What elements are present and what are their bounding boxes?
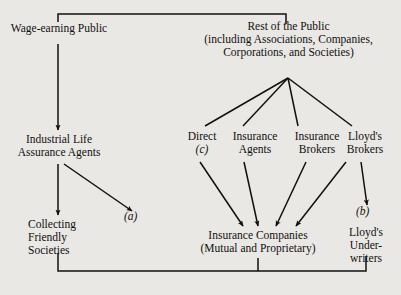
- node-wage-earning-public: Wage-earning Public: [0, 22, 118, 35]
- arrow-insurance-agents-to-insurance-companies: [244, 162, 258, 226]
- arrow-industrial-agents-to-note-a: [64, 164, 132, 211]
- node-collecting-friendly-societies-line-1: Friendly: [28, 231, 104, 244]
- node-collecting-friendly-societies-line-0: Collecting: [28, 218, 104, 231]
- node-rest-of-the-public: Rest of the Public (including Associatio…: [176, 20, 401, 59]
- node-lloyds-underwriters: Lloyd's Under- writers: [336, 226, 396, 265]
- node-lloyds-underwriters-line-0: Lloyd's: [336, 226, 396, 239]
- node-industrial-life-assurance-agents-line-1: Assurance Agents: [0, 146, 118, 159]
- node-collecting-friendly-societies: Collecting Friendly Societies: [28, 218, 104, 257]
- node-wage-earning-public-line-0: Wage-earning Public: [0, 22, 118, 35]
- arrow-lloyds-brokers-to-note-b: [361, 162, 367, 205]
- node-lloyds-brokers-line-0: Lloyd's: [336, 130, 394, 143]
- node-collecting-friendly-societies-line-2: Societies: [28, 244, 104, 257]
- line-rest-public-to-lloyds-brokers: [288, 78, 352, 126]
- node-industrial-life-assurance-agents: Industrial Life Assurance Agents: [0, 133, 118, 159]
- node-lloyds-underwriters-line-1: Under-: [336, 239, 396, 252]
- node-rest-of-the-public-line-1: (including Associations, Companies,: [176, 33, 401, 46]
- bottom-bracket-connector: [58, 253, 366, 271]
- node-lloyds-underwriters-line-2: writers: [336, 252, 396, 265]
- node-rest-of-the-public-line-0: Rest of the Public: [176, 20, 401, 33]
- node-industrial-life-assurance-agents-line-0: Industrial Life: [0, 133, 118, 146]
- node-insurance-agents-line-0: Insurance: [222, 130, 288, 143]
- annotation-a: (a): [124, 210, 156, 223]
- line-rest-public-to-insurance-agents: [243, 78, 288, 126]
- arrow-lloyds-brokers-to-insurance-companies: [296, 162, 346, 226]
- node-insurance-companies-line-0: Insurance Companies: [183, 229, 333, 242]
- node-insurance-agents: Insurance Agents: [222, 130, 288, 156]
- node-direct-label: Direct: [178, 130, 226, 143]
- insurance-distribution-flow-diagram: Wage-earning Public Rest of the Public (…: [0, 0, 401, 295]
- annotation-b: (b): [356, 205, 388, 218]
- arrow-direct-to-insurance-companies: [200, 162, 243, 226]
- arrow-insurance-brokers-to-insurance-companies: [276, 162, 306, 226]
- node-insurance-companies: Insurance Companies (Mutual and Propriet…: [183, 229, 333, 255]
- node-direct-note-c: (c): [178, 143, 226, 156]
- node-insurance-agents-line-1: Agents: [222, 143, 288, 156]
- node-lloyds-brokers-line-1: Brokers: [336, 143, 394, 156]
- node-rest-of-the-public-line-2: Corporations, and Societies): [176, 46, 401, 59]
- node-direct: Direct (c): [178, 130, 226, 156]
- node-insurance-companies-line-1: (Mutual and Proprietary): [183, 242, 333, 255]
- node-lloyds-brokers: Lloyd's Brokers: [336, 130, 394, 156]
- line-rest-public-to-direct: [205, 78, 288, 126]
